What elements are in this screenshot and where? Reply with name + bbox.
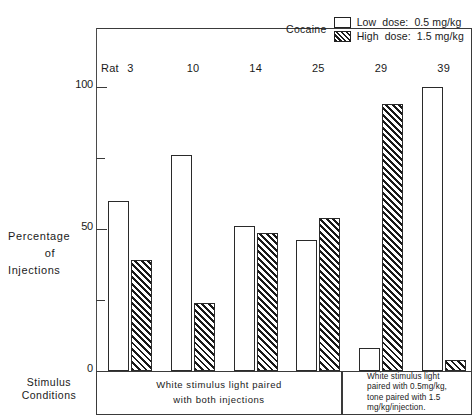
bar-rat-29-low-dose <box>359 348 380 371</box>
bar-rat-39-high-dose <box>445 360 466 371</box>
y-tick-mark-100 <box>96 87 107 88</box>
x-axis-title-line-2: Conditions <box>4 389 94 402</box>
bar-rat-10-high-dose <box>194 303 215 371</box>
legend-label-high-dose-word: dose: <box>385 30 411 42</box>
legend-label-low-dose-word: dose: <box>382 16 408 28</box>
y-tick-mark-75 <box>96 158 105 159</box>
bar-rat-25-low-dose <box>296 240 317 371</box>
legend-swatch-low-dose-icon <box>334 17 351 28</box>
condition-box-left-text: White stimulus light pairedwith both inj… <box>150 378 288 407</box>
legend-label-high-dose-name: High <box>357 30 379 42</box>
stimulus-conditions-row: White stimulus light pairedwith both inj… <box>96 371 472 415</box>
legend-label-low-dose-value: 0.5 mg/kg <box>414 16 461 28</box>
y-tick-label-0: 0 <box>87 363 93 374</box>
y-tick-label-100: 100 <box>75 79 93 90</box>
y-axis-title: Percentage of Injections <box>8 228 92 279</box>
legend-drug-name: Cocaine <box>286 23 327 36</box>
legend-label-low-dose-name: Low <box>357 16 377 28</box>
y-tick-mark-0 <box>96 371 107 372</box>
legend-item-high-dose: High dose: 1.5 mg/kg <box>334 30 464 42</box>
y-tick-label-50: 50 <box>81 221 93 232</box>
bar-rat-39-low-dose <box>422 87 443 371</box>
figure-chart-percentage-of-injections: Cocaine Low dose: 0.5 mg/kg High dose: 1… <box>0 0 475 419</box>
y-axis-title-line-1: Percentage <box>8 228 92 245</box>
legend: Cocaine Low dose: 0.5 mg/kg High dose: 1… <box>286 16 464 42</box>
x-axis-title-line-1: Stimulus <box>4 376 94 389</box>
bar-rat-14-high-dose <box>257 233 278 371</box>
bar-rat-3-low-dose <box>108 201 129 371</box>
condition-box-left: White stimulus light pairedwith both inj… <box>96 371 342 415</box>
y-axis-title-line-3: Injections <box>8 262 92 279</box>
bar-rat-14-low-dose <box>234 226 255 371</box>
y-axis-title-line-2: of <box>8 245 92 262</box>
x-axis-title: Stimulus Conditions <box>4 376 94 402</box>
bar-rat-25-high-dose <box>319 218 340 371</box>
legend-swatch-high-dose-icon <box>334 31 351 42</box>
condition-box-right-text: White stimulus lightpaired with 0.5mg/kg… <box>363 372 451 414</box>
y-tick-mark-25 <box>96 300 105 301</box>
bar-rat-29-high-dose <box>382 104 403 371</box>
bar-rat-10-low-dose <box>171 155 192 371</box>
legend-label-high-dose-value: 1.5 mg/kg <box>417 30 464 42</box>
legend-item-low-dose: Low dose: 0.5 mg/kg <box>334 16 464 28</box>
legend-rows: Low dose: 0.5 mg/kg High dose: 1.5 mg/kg <box>334 16 464 42</box>
bar-rat-3-high-dose <box>131 260 152 371</box>
y-tick-mark-50 <box>96 229 107 230</box>
condition-box-right: White stimulus lightpaired with 0.5mg/kg… <box>342 371 472 415</box>
plot-area <box>96 73 472 371</box>
